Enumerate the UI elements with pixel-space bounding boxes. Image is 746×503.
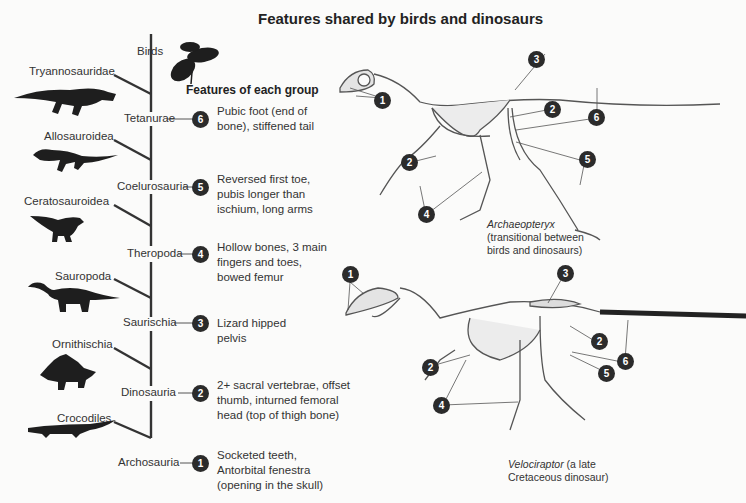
allosaur-silhouette-icon: [33, 149, 118, 172]
feature-archosauria: Socketed teeth, Antorbital fenestra (ope…: [217, 448, 347, 493]
velociraptor-caption-name: Velociraptor: [508, 458, 564, 470]
sauropod-silhouette-icon: [28, 283, 120, 312]
velociraptor-skeleton: [346, 288, 746, 430]
node-coelurosauria: Coelurosauria: [117, 180, 189, 192]
taxon-crocodiles: Crocodiles: [57, 412, 111, 424]
bird-silhouette-icon: [166, 42, 219, 86]
archaeopteryx-marker-2-upper-icon: 2: [544, 101, 561, 118]
archaeopteryx-caption-line2: (transitional between: [487, 231, 584, 243]
archaeopteryx-marker-1-icon: 1: [374, 92, 391, 109]
taxon-tyrannosauridae: Tryannosauridae: [29, 65, 115, 77]
archaeopteryx-marker-3-icon: 3: [528, 51, 545, 68]
velociraptor-marker-1-icon: 1: [342, 266, 359, 283]
marker-6-icon: 6: [192, 111, 209, 128]
archaeopteryx-caption-line3: birds and dinosaurs): [487, 244, 582, 256]
taxon-ceratosauroidea: Ceratosauroidea: [24, 195, 109, 207]
archaeopteryx-skeleton: [340, 70, 720, 240]
archaeopteryx-caption-name: Archaeopteryx: [487, 218, 555, 230]
archaeopteryx-marker-2-lower-icon: 2: [401, 154, 418, 171]
velociraptor-caption: Velociraptor (a late Cretaceous dinosaur…: [508, 458, 608, 484]
tyrannosaur-silhouette-icon: [14, 88, 116, 116]
taxon-allosauroidea: Allosauroidea: [44, 130, 114, 142]
velociraptor-marker-4-icon: 4: [433, 397, 450, 414]
marker-4-icon: 4: [192, 246, 209, 263]
marker-2-icon: 2: [192, 385, 209, 402]
taxon-ornithischia: Ornithischia: [52, 338, 113, 350]
stegosaur-silhouette-icon: [40, 354, 96, 390]
node-theropoda: Theropoda: [127, 247, 183, 259]
velociraptor-marker-2-lower-icon: 2: [422, 359, 439, 376]
ceratosaur-silhouette-icon: [30, 216, 84, 242]
archaeopteryx-marker-6-icon: 6: [588, 109, 605, 126]
node-archosauria: Archosauria: [118, 456, 179, 468]
feature-theropoda: Hollow bones, 3 main fingers and toes, b…: [217, 240, 327, 285]
marker-3-icon: 3: [192, 315, 209, 332]
node-saurischia: Saurischia: [123, 316, 177, 328]
node-tetanurae: Tetanurae: [124, 112, 175, 124]
archaeopteryx-marker-4-icon: 4: [418, 206, 435, 223]
velociraptor-caption-line1-rest: (a late: [564, 458, 596, 470]
taxon-sauropoda: Sauropoda: [55, 270, 111, 282]
feature-coelurosauria: Reversed first toe, pubis longer than is…: [217, 172, 332, 217]
node-dinosauria: Dinosauria: [121, 386, 176, 398]
velociraptor-marker-6-icon: 6: [617, 353, 634, 370]
velociraptor-marker-2-upper-icon: 2: [591, 333, 608, 350]
marker-5-icon: 5: [192, 179, 209, 196]
feature-saurischia: Lizard hipped pelvis: [217, 316, 317, 346]
velociraptor-marker-3-icon: 3: [557, 265, 574, 282]
archaeopteryx-caption: Archaeopteryx (transitional between bird…: [487, 218, 584, 257]
archaeopteryx-marker-5-icon: 5: [579, 151, 596, 168]
features-heading: Features of each group: [186, 83, 319, 97]
page-title: Features shared by birds and dinosaurs: [258, 10, 543, 27]
taxon-birds: Birds: [137, 45, 163, 57]
feature-dinosauria: 2+ sacral vertebrae, offset thumb, intur…: [217, 378, 352, 423]
velociraptor-marker-5-icon: 5: [598, 365, 615, 382]
velociraptor-caption-line2: Cretaceous dinosaur): [508, 471, 608, 483]
marker-1-icon: 1: [192, 455, 209, 472]
feature-tetanurae: Pubic foot (end of bone), stiffened tail: [217, 104, 332, 134]
